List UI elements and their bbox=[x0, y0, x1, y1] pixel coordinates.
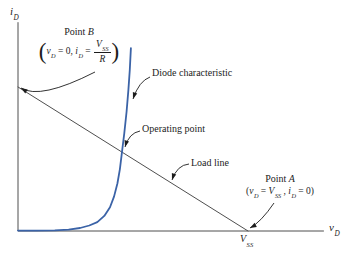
x-tick-vss: VSS bbox=[240, 233, 253, 247]
load-line-label: Load line bbox=[191, 157, 229, 169]
var-vss: V bbox=[269, 186, 275, 196]
point-b-annotation: Point B (vD = 0, iD = VSSR) bbox=[36, 26, 122, 64]
x-tick-vss-sub: SS bbox=[247, 241, 254, 248]
point-b-formula: (vD = 0, iD = VSSR) bbox=[36, 39, 122, 65]
point-a-formula: (vD = VSS , iD = 0) bbox=[241, 186, 319, 198]
var-vss: V bbox=[96, 39, 102, 49]
operating-point-label: Operating point bbox=[142, 123, 205, 135]
eq-text: = 0 bbox=[296, 186, 311, 196]
operating-point-arrow-head bbox=[125, 140, 129, 147]
var-id-sub: D bbox=[78, 52, 83, 59]
diode-characteristic-label: Diode characteristic bbox=[152, 67, 232, 79]
diode-loadline-figure: iD vD VSS Point B (vD = 0, iD = VSSR) Di… bbox=[0, 0, 354, 259]
close-paren: ) bbox=[311, 186, 314, 196]
diode-characteristic-arrow-head bbox=[133, 92, 137, 99]
x-tick-vss-base: V bbox=[240, 233, 246, 244]
x-axis-label: vD bbox=[329, 221, 340, 236]
point-b-word: Point bbox=[64, 26, 85, 37]
x-axis-label-sub: D bbox=[334, 230, 339, 238]
y-axis-label-base: i bbox=[10, 5, 13, 17]
point-a-title: Point A bbox=[241, 173, 319, 185]
vss-over-r-fraction: VSSR bbox=[94, 39, 111, 65]
eq-text: = bbox=[83, 45, 93, 55]
var-vd-sub: D bbox=[254, 192, 259, 199]
close-paren: ) bbox=[112, 39, 120, 64]
var-id-sub: D bbox=[291, 192, 296, 199]
eq-text: = 0, bbox=[56, 45, 76, 55]
point-b-arrow bbox=[21, 72, 95, 92]
var-vd: v bbox=[46, 45, 50, 55]
point-b-title: Point B bbox=[36, 26, 122, 38]
y-axis-label-sub: D bbox=[14, 14, 19, 22]
point-a-annotation: Point A (vD = VSS , iD = 0) bbox=[241, 173, 319, 198]
point-b-letter: B bbox=[88, 26, 94, 37]
eq-text: = bbox=[258, 186, 268, 196]
operating-point-arrow bbox=[125, 131, 140, 147]
load-line-arrow bbox=[172, 164, 189, 180]
var-vss-sub: SS bbox=[102, 45, 108, 52]
point-a-word: Point bbox=[265, 173, 286, 184]
diode-curve bbox=[18, 48, 131, 231]
var-vd: v bbox=[249, 186, 253, 196]
fraction-numerator: VSS bbox=[94, 39, 111, 53]
fraction-denominator: R bbox=[94, 53, 111, 64]
var-vd-sub: D bbox=[51, 52, 56, 59]
load-line-arrow-head bbox=[172, 173, 176, 180]
var-vss-sub: SS bbox=[275, 192, 281, 199]
point-a-letter: A bbox=[289, 173, 295, 184]
y-axis-label: iD bbox=[10, 5, 19, 20]
